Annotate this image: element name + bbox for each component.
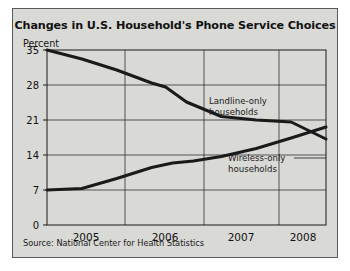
- chart-figure-card: Changes in U.S. Household's Phone Servic…: [12, 8, 338, 258]
- chart-plot: 35 28 21 14 7 0 2005 2006 2007 2008 Land…: [13, 9, 339, 259]
- annotation-landline-line2: households: [209, 107, 258, 117]
- plot-area-frame: [47, 50, 326, 225]
- ytick-label-35: 35: [26, 45, 39, 56]
- xtick-label-2007: 2007: [228, 231, 255, 243]
- ytick-label-0: 0: [33, 220, 39, 231]
- annotation-wireless-line2: households: [228, 164, 277, 174]
- ytick-label-14: 14: [26, 150, 39, 161]
- ytick-label-21: 21: [26, 115, 39, 126]
- y-axis-ticks: [43, 50, 47, 225]
- annotation-landline-line1: Landline-only: [209, 96, 267, 106]
- annotation-wireless-line1: Wireless-only: [228, 153, 285, 163]
- xtick-label-2008: 2008: [290, 231, 317, 243]
- ytick-label-28: 28: [26, 80, 39, 91]
- ytick-label-7: 7: [33, 185, 39, 196]
- source-note: Source: National Center for Health Stati…: [23, 238, 204, 248]
